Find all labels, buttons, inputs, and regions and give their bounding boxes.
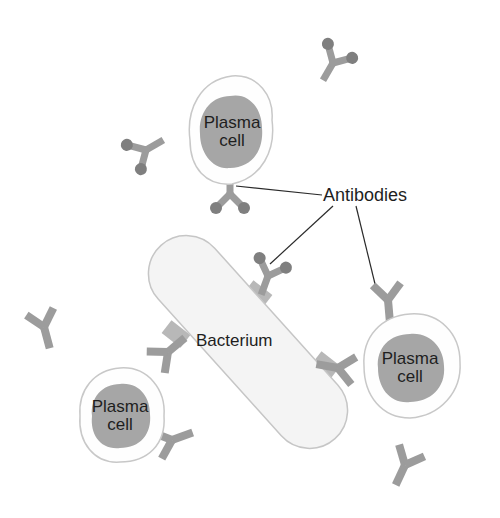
antibody-free-far-left <box>26 308 63 352</box>
plasma-cell-right-label: Plasma cell <box>378 350 442 386</box>
bacterium-label: Bacterium <box>196 332 273 350</box>
plasma-cell-bottom-left-label: Plasma cell <box>88 398 152 434</box>
antibodies-callout-label: Antibodies <box>323 186 407 205</box>
antibody-free-top-right <box>306 36 361 91</box>
plasma-cell-top-label: Plasma cell <box>200 114 264 150</box>
plasma-cell-top-line1: Plasma <box>200 114 264 132</box>
plasma-cell-top-line2: cell <box>200 132 264 150</box>
plasma-cell-bottom-left-line1: Plasma <box>88 398 152 416</box>
antibody-free-left <box>119 123 174 178</box>
plasma-cell-right-line2: cell <box>378 368 442 386</box>
antibody-free-bottom-right <box>383 445 424 491</box>
immune-response-diagram <box>0 0 500 518</box>
plasma-cell-right-line1: Plasma <box>378 350 442 368</box>
plasma-cell-bottom-left-line2: cell <box>88 416 152 434</box>
